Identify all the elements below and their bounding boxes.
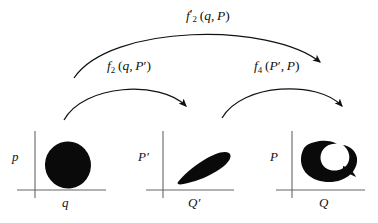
panel-Q-P-blob — [301, 141, 357, 182]
label-args-f4: (P′, P) — [262, 58, 299, 73]
arrow-left-f2-path — [64, 89, 186, 120]
label-args-f2prime: (q, P) — [197, 8, 230, 23]
panel-Q-P-y-axis-label: P — [270, 150, 278, 163]
panel-q-p-y-axis-label: p — [12, 150, 19, 163]
panel-Qprime-Pprime-x-axis-label: Q′ — [188, 196, 200, 209]
panel-Q-P-x-axis-label: Q — [319, 196, 328, 209]
panel-Q-P — [276, 131, 365, 198]
label-args-f2: (q, P′) — [115, 58, 151, 73]
panel-Qprime-Pprime-blob — [178, 152, 231, 184]
panel-q-p-x-axis-label: q — [62, 196, 69, 209]
panel-q-p-blob — [42, 139, 94, 192]
arrow-right-f4 — [222, 89, 342, 118]
panel-Qprime-Pprime — [146, 131, 234, 198]
arrow-left-f2 — [64, 89, 186, 120]
phase-space-transformation-figure: f′2 (q, P) f2 (q, P′) f4 (P′, P) p q P′ … — [0, 0, 378, 223]
arrow-top-f2prime-label: f′2 (q, P) — [186, 8, 230, 24]
figure-canvas — [0, 0, 378, 223]
arrow-right-f4-label: f4 (P′, P) — [254, 59, 299, 75]
arrow-left-f2-label: f2 (q, P′) — [107, 59, 151, 75]
arrow-right-f4-path — [222, 89, 342, 118]
panel-Qprime-Pprime-y-axis-label: P′ — [138, 150, 149, 163]
panel-q-p — [17, 131, 106, 198]
